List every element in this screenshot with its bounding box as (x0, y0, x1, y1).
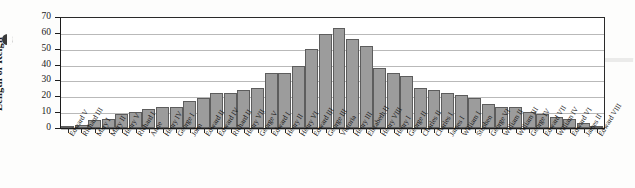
y-axis-tick-label: 0 (23, 123, 51, 133)
y-axis-title: Length of Reign (0, 18, 7, 130)
y-axis-tick-label: 20 (23, 91, 51, 101)
chart-figure: Length of Reign 706050403020100 Edward V… (0, 0, 635, 188)
y-axis-tick-label: 10 (23, 107, 51, 117)
y-axis-tick-label: 50 (23, 44, 51, 54)
y-axis-tick-label: 70 (23, 12, 51, 22)
y-axis-tick-label: 30 (23, 75, 51, 85)
x-axis-tick-labels: Edward VRichard IIIMary IMary IIHenry VR… (0, 133, 635, 188)
y-axis-tick-label: 40 (23, 60, 51, 70)
y-axis-tick-label: 60 (23, 28, 51, 38)
